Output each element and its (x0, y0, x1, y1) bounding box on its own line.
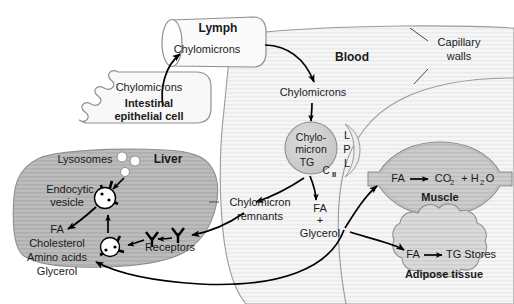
muscle-fa-label: FA (391, 172, 405, 184)
adipose-fa-label: FA (406, 248, 420, 260)
chylomicron-metabolism-diagram: Lymph Chylomicrons Chylomicrons Intestin… (0, 0, 514, 304)
blood-label: Blood (335, 50, 369, 64)
intestine-chylomicrons-label: Chylomicrons (116, 81, 183, 93)
arrow-blood-to-particle (311, 103, 312, 121)
liver-product-1: Cholesterol (29, 237, 85, 249)
adipose-tissue-organ (393, 204, 487, 277)
chylomicron-line3: TG (300, 156, 315, 168)
receptors-label: Receptors (145, 241, 196, 253)
intestine-label-line1: Intestinal (125, 97, 173, 109)
chylomicron-line2: micron (295, 143, 327, 155)
blood-glycerol-label: Glycerol (300, 227, 340, 239)
muscle-water-subscript: 2 (480, 178, 484, 187)
remnants-label-line1: Chylomicron (229, 196, 290, 208)
liver-label: Liver (154, 152, 183, 166)
muscle-water-oxygen: O (486, 172, 495, 184)
diagram-canvas: Lymph Chylomicrons Chylomicrons Intestin… (0, 0, 514, 304)
arrow-receptor-transfer (158, 238, 172, 239)
liver-product-3: Glycerol (37, 265, 77, 277)
endocytic-vesicle-label-line1: Endocytic (46, 183, 94, 195)
lpl-letter-p: P (343, 143, 350, 155)
adipose-tg-label: TG Stores (446, 248, 497, 260)
lysosome-icon (130, 156, 140, 166)
lymph-chylomicrons-label: Chylomicrons (174, 43, 241, 55)
chylomicron-line1: Chylo- (296, 131, 327, 143)
lpl-letter-l1: L (344, 129, 350, 141)
chylomicron-apo-subscript: II (332, 170, 336, 179)
blood-chylomicrons-label: Chylomicrons (280, 86, 347, 98)
muscle-label: Muscle (421, 191, 458, 203)
chylomicron-apo: C (322, 165, 329, 176)
lpl-letter-l2: L (344, 157, 350, 169)
endocytic-vesicle-label-line2: vesicle (50, 196, 84, 208)
lymph-label: Lymph (199, 21, 238, 35)
capillary-label-line1: Capillary (438, 36, 481, 48)
muscle-water-label: + H (461, 172, 478, 184)
intestine-label-line2: epithelial cell (114, 110, 183, 122)
lysosome-icon (117, 152, 127, 162)
lysosome-icon (121, 168, 130, 177)
adipose-label: Adipose tissue (405, 268, 483, 280)
lysosomes-label: Lysosomes (57, 153, 113, 165)
capillary-label-line2: walls (446, 50, 472, 62)
blood-plus-label: + (317, 214, 323, 226)
muscle-co2-subscript: 2 (450, 178, 454, 187)
blood-fa-label: FA (313, 202, 327, 214)
liver-product-2: Amino acids (27, 251, 87, 263)
liver-product-0: FA (50, 223, 64, 235)
remnants-label-line2: remnants (237, 210, 283, 222)
